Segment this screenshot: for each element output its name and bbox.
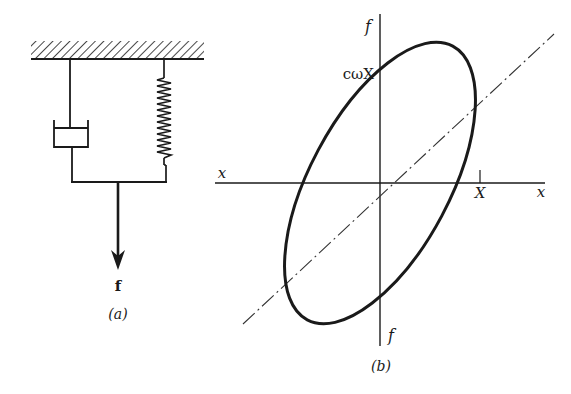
force-arrow-icon — [111, 182, 125, 270]
caption-b: (b) — [371, 358, 391, 374]
dashpot — [54, 59, 88, 182]
intercept-label: cωX — [343, 65, 375, 83]
force-label: f — [115, 277, 123, 295]
figure-b: x x f f cωX X (b) — [215, 13, 554, 374]
f-axis-label-bottom: f — [387, 326, 397, 345]
caption-a: (a) — [108, 306, 127, 322]
x-axis-label-left: x — [218, 164, 227, 182]
spring — [157, 59, 171, 182]
fixed-support — [31, 41, 204, 59]
x-axis-label-right: x — [537, 183, 546, 201]
figure-canvas: f (a) x x f f cωX X (b) — [0, 0, 571, 394]
amplitude-label: X — [474, 184, 487, 202]
f-axis-label-top: f — [364, 17, 374, 36]
figure-a: f (a) — [31, 41, 204, 322]
